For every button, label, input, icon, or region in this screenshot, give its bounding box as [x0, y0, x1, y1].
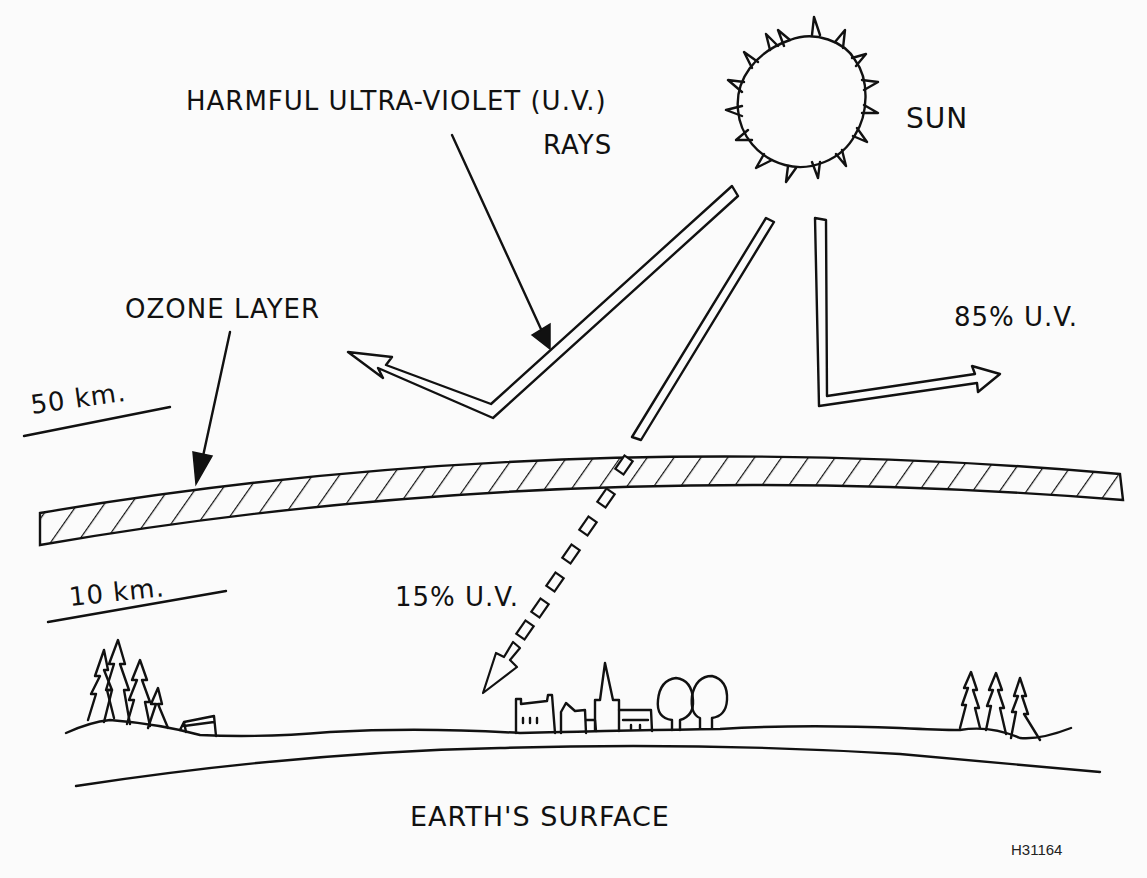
- earth-surface-label: EARTH'S SURFACE: [410, 801, 670, 832]
- trees-left-icon: [88, 640, 168, 728]
- uv-rays-label-line2: RAYS: [543, 130, 612, 160]
- reflected-uv-label: 85% U.V.: [954, 302, 1078, 332]
- ozone-layer-label: OZONE LAYER: [125, 294, 320, 324]
- sun-icon: [726, 17, 878, 182]
- ozone-uv-diagram: SUN HARMFUL ULTRA-VIOLET (U.V.) RAYS 85%…: [0, 0, 1147, 878]
- figure-code: H31164: [1011, 841, 1062, 858]
- uv-pointer-arrow: [452, 135, 550, 349]
- deciduous-trees-icon: [658, 676, 727, 730]
- sun-label: SUN: [906, 102, 968, 135]
- barn-icon: [180, 716, 216, 736]
- transmitted-ray-beam: [632, 218, 774, 440]
- earth-landscape: [66, 720, 1100, 786]
- ozone-pointer-arrow: [193, 332, 230, 484]
- transmitted-uv-label: 15% U.V.: [395, 582, 519, 612]
- altitude-50km-label: 50 km.: [29, 377, 128, 420]
- reflected-ray-arrow-left: [348, 186, 738, 418]
- uv-rays-label-line1: HARMFUL ULTRA-VIOLET (U.V.): [186, 86, 607, 116]
- altitude-10km-label: 10 km.: [67, 572, 166, 612]
- village-icon: [516, 663, 652, 733]
